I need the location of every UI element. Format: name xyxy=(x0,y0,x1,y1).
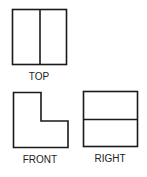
right-view: RIGHT xyxy=(84,92,138,165)
top-view-label: TOP xyxy=(29,71,50,82)
orthographic-diagram: TOP FRONT RIGHT xyxy=(0,0,147,177)
right-view-label: RIGHT xyxy=(94,153,125,164)
front-view: FRONT xyxy=(14,93,69,166)
front-view-label: FRONT xyxy=(23,154,57,165)
front-view-outline xyxy=(14,93,69,148)
top-view: TOP xyxy=(13,10,67,83)
